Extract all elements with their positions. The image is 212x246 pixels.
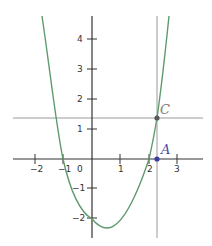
y-axis [87, 16, 97, 238]
y-tick-label: 4 [77, 34, 83, 44]
x-tick-label: 2 [147, 164, 153, 174]
y-tick-label: 3 [77, 64, 83, 74]
point-c-label: C [160, 102, 170, 117]
point-a-label: A [160, 142, 170, 157]
function-graph: −2 −1 0 1 2 3 4 3 2 1 −1 −2 C A [0, 0, 212, 246]
y-tick-label: 2 [77, 94, 83, 104]
parabola-curve [42, 16, 169, 228]
x-tick-label: 1 [118, 164, 124, 174]
y-tick-label: −1 [72, 183, 85, 193]
point-c-marker [154, 115, 159, 120]
x-tick-label: 0 [77, 164, 83, 174]
point-a-marker [154, 156, 159, 161]
x-tick-label: −2 [30, 164, 43, 174]
y-tick-label: 1 [77, 124, 83, 134]
y-tick-label: −2 [72, 213, 85, 223]
x-tick-label: 3 [174, 164, 180, 174]
x-axis [13, 154, 203, 164]
